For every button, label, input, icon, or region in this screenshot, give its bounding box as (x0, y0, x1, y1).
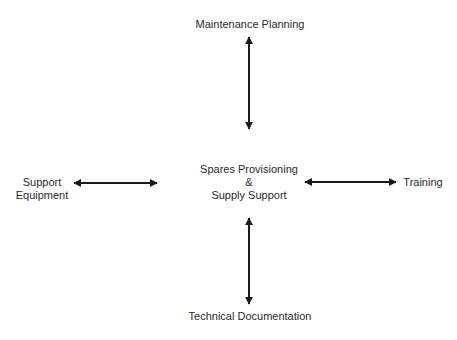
node-center-line2: & (189, 176, 309, 189)
node-technical-documentation: Technical Documentation (180, 310, 320, 323)
node-maintenance-planning: Maintenance Planning (190, 18, 310, 31)
node-support-equipment-line2: Equipment (12, 189, 72, 202)
node-center-line3: Supply Support (189, 189, 309, 202)
node-support-equipment-line1: Support (12, 176, 72, 189)
node-support-equipment: Support Equipment (12, 176, 72, 202)
node-center-line1: Spares Provisioning (189, 163, 309, 176)
node-spares-provisioning: Spares Provisioning & Supply Support (189, 163, 309, 202)
node-training: Training (398, 176, 448, 189)
